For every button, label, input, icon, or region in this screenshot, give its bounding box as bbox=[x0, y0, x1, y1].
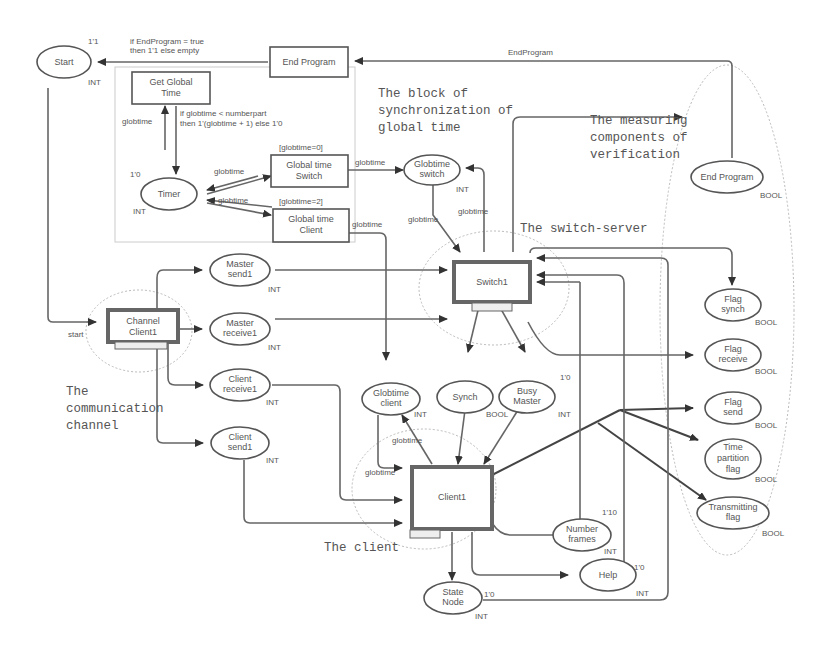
svg-text:Client: Client bbox=[228, 374, 252, 384]
place-time-partition-flag[interactable]: Time partition flag BOOL bbox=[705, 439, 778, 484]
svg-text:BOOL: BOOL bbox=[486, 410, 509, 419]
svg-text:globtime: globtime bbox=[365, 468, 396, 477]
svg-text:start: start bbox=[68, 330, 84, 339]
svg-text:receive1: receive1 bbox=[223, 328, 257, 338]
svg-text:globtime: globtime bbox=[214, 167, 245, 176]
svg-text:Client: Client bbox=[228, 432, 252, 442]
svg-text:INT: INT bbox=[88, 78, 101, 87]
svg-text:INT: INT bbox=[414, 410, 427, 419]
place-globtime-switch[interactable]: Globtime switch INT bbox=[404, 155, 469, 194]
svg-text:Get Global: Get Global bbox=[149, 77, 192, 87]
svg-text:send1: send1 bbox=[228, 269, 253, 279]
transition-switch1[interactable]: Switch1 bbox=[454, 262, 530, 311]
place-state-node[interactable]: State Node INT 1'0 bbox=[424, 582, 495, 621]
svg-text:Global time: Global time bbox=[288, 214, 334, 224]
svg-text:BOOL: BOOL bbox=[755, 421, 778, 430]
transition-global-time-switch[interactable]: Global time Switch [globtime=0] bbox=[271, 143, 348, 187]
svg-text:1'0: 1'0 bbox=[634, 563, 645, 572]
svg-text:then 1'(globtime + 1) else 1'0: then 1'(globtime + 1) else 1'0 bbox=[180, 119, 283, 128]
transition-end-program[interactable]: End Program bbox=[270, 47, 348, 77]
place-master-receive1[interactable]: Master receive1 INT bbox=[210, 313, 281, 352]
place-client-receive1[interactable]: Client receive1 INT bbox=[210, 369, 279, 407]
svg-text:BOOL: BOOL bbox=[762, 529, 785, 538]
svg-text:Client: Client bbox=[299, 225, 323, 235]
svg-text:Global time: Global time bbox=[286, 160, 332, 170]
svg-text:INT: INT bbox=[268, 285, 281, 294]
svg-text:globtime: globtime bbox=[458, 207, 489, 216]
svg-text:State: State bbox=[442, 587, 463, 597]
svg-text:globtime: globtime bbox=[352, 220, 383, 229]
svg-text:Master: Master bbox=[226, 259, 254, 269]
svg-text:send1: send1 bbox=[228, 442, 253, 452]
place-help[interactable]: Help 1'0 INT bbox=[580, 559, 649, 598]
place-start[interactable]: Start 1'1 INT bbox=[37, 37, 101, 87]
svg-text:The: The bbox=[66, 385, 89, 399]
annotation-client: The client bbox=[324, 541, 399, 555]
svg-text:Help: Help bbox=[599, 570, 618, 580]
svg-text:INT: INT bbox=[636, 589, 649, 598]
transition-channel-client1[interactable]: Channel Client1 bbox=[108, 310, 178, 349]
transition-global-time-client[interactable]: Global time Client [globtime=2] bbox=[273, 197, 349, 242]
svg-text:verification: verification bbox=[590, 148, 680, 162]
place-globtime-client[interactable]: Globtime client INT bbox=[362, 383, 427, 419]
svg-text:globtime: globtime bbox=[218, 196, 249, 205]
svg-text:Globtime: Globtime bbox=[414, 159, 450, 169]
svg-text:1'0: 1'0 bbox=[484, 590, 495, 599]
svg-text:global time: global time bbox=[378, 121, 461, 135]
svg-text:send: send bbox=[723, 407, 743, 417]
place-timer[interactable]: Timer 1'0 INT bbox=[130, 170, 197, 216]
svg-text:flag: flag bbox=[726, 464, 741, 474]
place-master-send1[interactable]: Master send1 INT bbox=[210, 254, 281, 294]
place-flag-send[interactable]: Flag send BOOL bbox=[705, 392, 778, 430]
place-synch[interactable]: Synch BOOL bbox=[437, 381, 509, 419]
svg-text:Channel: Channel bbox=[126, 316, 160, 326]
svg-text:[globtime=0]: [globtime=0] bbox=[279, 143, 323, 152]
svg-text:channel: channel bbox=[66, 419, 119, 433]
svg-text:1'1: 1'1 bbox=[88, 37, 99, 46]
svg-text:frames: frames bbox=[568, 534, 596, 544]
svg-text:Globtime: Globtime bbox=[373, 388, 409, 398]
petri-net-diagram: Start 1'1 INT Timer 1'0 INT Globtime swi… bbox=[0, 0, 831, 659]
svg-text:Master: Master bbox=[226, 318, 254, 328]
svg-text:Node: Node bbox=[442, 597, 464, 607]
svg-text:receive1: receive1 bbox=[223, 384, 257, 394]
svg-text:flag: flag bbox=[726, 512, 741, 522]
place-flag-receive[interactable]: Flag receive BOOL bbox=[705, 339, 778, 376]
svg-text:INT: INT bbox=[133, 207, 146, 216]
annotation-measuring: The measuring components of verification bbox=[590, 114, 688, 162]
svg-text:synchronization of: synchronization of bbox=[378, 104, 513, 118]
place-busy-master[interactable]: Busy Master INT 1'0 bbox=[499, 373, 571, 419]
place-flag-synch[interactable]: Flag synch BOOL bbox=[705, 289, 778, 327]
transition-get-global-time[interactable]: Get Global Time bbox=[132, 72, 210, 104]
svg-text:INT: INT bbox=[266, 398, 279, 407]
svg-text:BOOL: BOOL bbox=[755, 475, 778, 484]
svg-text:then 1'1 else empty: then 1'1 else empty bbox=[130, 46, 199, 55]
svg-text:End Program: End Program bbox=[700, 172, 753, 182]
annotation-comm-channel: The communication channel bbox=[66, 385, 164, 433]
place-end-program[interactable]: End Program BOOL bbox=[691, 161, 783, 200]
svg-text:Time: Time bbox=[723, 442, 743, 452]
svg-text:INT: INT bbox=[268, 343, 281, 352]
svg-text:Start: Start bbox=[54, 57, 74, 67]
svg-text:Master: Master bbox=[513, 396, 541, 406]
svg-text:globtime: globtime bbox=[355, 158, 386, 167]
svg-text:globtime: globtime bbox=[122, 117, 153, 126]
svg-text:Switch1: Switch1 bbox=[476, 277, 508, 287]
svg-text:switch: switch bbox=[419, 169, 444, 179]
svg-text:Busy: Busy bbox=[517, 386, 538, 396]
svg-text:communication: communication bbox=[66, 402, 164, 416]
place-client-send1[interactable]: Client send1 INT bbox=[211, 427, 279, 465]
svg-text:BOOL: BOOL bbox=[755, 318, 778, 327]
svg-text:INT: INT bbox=[266, 456, 279, 465]
svg-text:if EndProgram = true: if EndProgram = true bbox=[130, 37, 205, 46]
place-number-frames[interactable]: Number frames INT 1'10 bbox=[553, 508, 617, 556]
svg-text:Transmitting: Transmitting bbox=[708, 502, 757, 512]
svg-text:End Program: End Program bbox=[282, 57, 335, 67]
svg-text:Client1: Client1 bbox=[438, 492, 466, 502]
svg-text:Time: Time bbox=[161, 88, 181, 98]
place-transmitting-flag[interactable]: Transmitting flag BOOL bbox=[697, 497, 785, 538]
transition-client1[interactable]: Client1 bbox=[410, 467, 492, 538]
svg-text:components of: components of bbox=[590, 131, 688, 145]
svg-text:if globtime < numberpart: if globtime < numberpart bbox=[180, 109, 267, 118]
svg-text:synch: synch bbox=[721, 304, 745, 314]
